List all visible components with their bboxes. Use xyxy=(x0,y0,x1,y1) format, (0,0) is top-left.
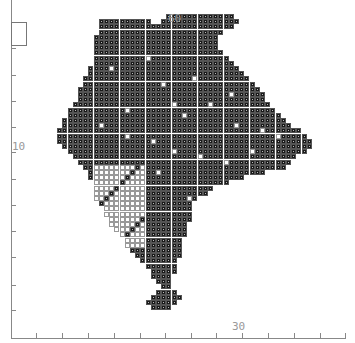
grid-cell xyxy=(239,175,244,180)
y-tick xyxy=(11,231,16,232)
y-tick xyxy=(11,101,16,102)
grid-cell xyxy=(234,19,239,24)
grid-cell xyxy=(182,232,187,237)
grid-cell xyxy=(218,30,223,35)
grid-cell xyxy=(281,165,286,170)
y-axis xyxy=(11,0,12,338)
grid-cell xyxy=(177,253,182,258)
x-tick xyxy=(191,333,192,338)
y-tick xyxy=(11,205,16,206)
grid-cell xyxy=(203,191,208,196)
y-tick xyxy=(11,48,16,49)
y-tick xyxy=(11,310,16,311)
x-tick xyxy=(36,333,37,338)
x-tick xyxy=(114,333,115,338)
label-60: 60 xyxy=(168,12,181,25)
y-tick xyxy=(11,285,16,286)
x-tick xyxy=(216,333,217,338)
y-tick xyxy=(11,75,16,76)
grid-cell xyxy=(229,24,234,29)
x-tick xyxy=(345,333,346,338)
x-tick xyxy=(140,333,141,338)
grid-cell xyxy=(187,217,192,222)
x-tick xyxy=(242,333,243,338)
x-tick xyxy=(320,333,321,338)
grid-cell xyxy=(224,180,229,185)
grid-cell xyxy=(177,295,182,300)
y-tick xyxy=(11,179,16,180)
grid-cell xyxy=(291,154,296,159)
grid-cell xyxy=(172,300,177,305)
grid-cell xyxy=(260,170,265,175)
grid-cell xyxy=(208,186,213,191)
x-axis xyxy=(11,338,346,339)
grid-cell xyxy=(172,269,177,274)
x-tick xyxy=(294,333,295,338)
x-tick xyxy=(62,333,63,338)
grid-cell xyxy=(307,144,312,149)
label-30: 30 xyxy=(232,320,245,333)
grid-cell xyxy=(286,160,291,165)
y-tick xyxy=(11,127,16,128)
legend-key-icon xyxy=(11,22,27,46)
label-10: 10 xyxy=(12,140,25,153)
grid-cell xyxy=(192,196,197,201)
grid-cell xyxy=(302,149,307,154)
distribution-map: 60 10 30 xyxy=(0,0,355,343)
x-tick xyxy=(165,333,166,338)
grid-cell xyxy=(166,305,171,310)
y-tick xyxy=(11,257,16,258)
x-tick xyxy=(88,333,89,338)
x-tick xyxy=(268,333,269,338)
